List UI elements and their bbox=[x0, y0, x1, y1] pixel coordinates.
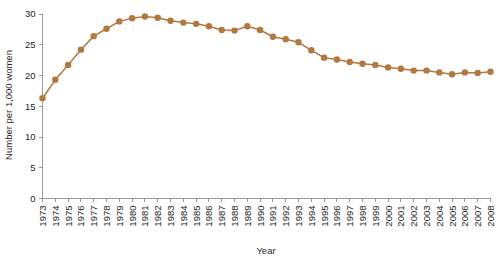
x-tick-label-2000: 2000 bbox=[383, 206, 394, 227]
data-point-1987 bbox=[219, 27, 225, 33]
data-point-1978 bbox=[103, 26, 109, 32]
x-tick-label-1978: 1978 bbox=[101, 206, 112, 227]
data-point-1975 bbox=[65, 62, 71, 68]
data-point-2007 bbox=[475, 70, 481, 76]
data-point-2006 bbox=[462, 69, 468, 75]
data-point-1982 bbox=[155, 14, 161, 20]
data-point-1988 bbox=[231, 27, 237, 33]
data-point-1985 bbox=[193, 21, 199, 27]
data-point-2000 bbox=[385, 64, 391, 70]
x-tick-label-2006: 2006 bbox=[459, 206, 470, 227]
data-point-1997 bbox=[347, 59, 353, 65]
x-tick-label-1976: 1976 bbox=[75, 206, 86, 227]
data-point-1989 bbox=[244, 23, 250, 29]
data-point-1973 bbox=[39, 95, 45, 101]
x-tick-label-1975: 1975 bbox=[63, 206, 74, 227]
x-tick-label-1994: 1994 bbox=[306, 206, 317, 227]
x-tick-label-1984: 1984 bbox=[178, 206, 189, 227]
x-tick-label-2008: 2008 bbox=[485, 206, 496, 227]
data-point-1993 bbox=[295, 39, 301, 45]
x-tick-label-2003: 2003 bbox=[421, 206, 432, 227]
data-point-1981 bbox=[142, 13, 148, 19]
x-tick-label-1979: 1979 bbox=[114, 206, 125, 227]
x-tick-label-1993: 1993 bbox=[293, 206, 304, 227]
x-tick-label-1992: 1992 bbox=[280, 206, 291, 227]
data-point-1974 bbox=[52, 77, 58, 83]
y-tick-label-5: 5 bbox=[30, 162, 35, 173]
y-tick-label-20: 20 bbox=[25, 70, 36, 81]
x-tick-label-1981: 1981 bbox=[139, 206, 150, 227]
x-tick-label-1998: 1998 bbox=[357, 206, 368, 227]
x-tick-label-1996: 1996 bbox=[331, 206, 342, 227]
x-tick-label-2002: 2002 bbox=[408, 206, 419, 227]
x-tick-label-1988: 1988 bbox=[229, 206, 240, 227]
data-point-1995 bbox=[321, 54, 327, 60]
x-axis-title: Year bbox=[256, 245, 275, 256]
y-tick-label-15: 15 bbox=[25, 101, 36, 112]
data-point-1991 bbox=[270, 34, 276, 40]
data-point-1996 bbox=[334, 56, 340, 62]
x-tick-label-1983: 1983 bbox=[165, 206, 176, 227]
x-tick-label-1990: 1990 bbox=[255, 206, 266, 227]
data-point-1979 bbox=[116, 18, 122, 24]
data-point-1984 bbox=[180, 19, 186, 25]
data-point-1998 bbox=[359, 61, 365, 67]
data-point-1994 bbox=[308, 47, 314, 53]
x-tick-label-2004: 2004 bbox=[434, 206, 445, 227]
x-tick-label-1999: 1999 bbox=[370, 206, 381, 227]
data-point-1999 bbox=[372, 62, 378, 68]
x-tick-label-1989: 1989 bbox=[242, 206, 253, 227]
x-tick-label-1982: 1982 bbox=[152, 206, 163, 227]
chart-page: 051015202530 197319741975197619771978197… bbox=[0, 0, 501, 260]
x-tick-label-1986: 1986 bbox=[203, 206, 214, 227]
data-point-1976 bbox=[78, 46, 84, 52]
data-point-2008 bbox=[487, 69, 493, 75]
y-tick-label-0: 0 bbox=[30, 193, 35, 204]
line-chart-figure: 051015202530 197319741975197619771978197… bbox=[0, 0, 501, 260]
data-point-1977 bbox=[91, 33, 97, 39]
data-point-2004 bbox=[436, 69, 442, 75]
chart-canvas: 051015202530 197319741975197619771978197… bbox=[0, 0, 501, 260]
y-tick-label-25: 25 bbox=[25, 39, 36, 50]
x-tick-label-2001: 2001 bbox=[395, 206, 406, 227]
data-point-2003 bbox=[423, 67, 429, 73]
x-tick-label-1977: 1977 bbox=[88, 206, 99, 227]
data-point-1983 bbox=[167, 18, 173, 24]
y-tick-label-10: 10 bbox=[25, 131, 36, 142]
x-tick-label-1997: 1997 bbox=[344, 206, 355, 227]
x-tick-label-1974: 1974 bbox=[50, 206, 61, 227]
x-tick-label-2005: 2005 bbox=[447, 206, 458, 227]
x-tick-label-1980: 1980 bbox=[127, 206, 138, 227]
data-point-2005 bbox=[449, 71, 455, 77]
x-tick-label-1991: 1991 bbox=[267, 206, 278, 227]
data-point-1980 bbox=[129, 15, 135, 21]
x-tick-label-1987: 1987 bbox=[216, 206, 227, 227]
data-point-2001 bbox=[398, 66, 404, 72]
x-tick-label-1985: 1985 bbox=[191, 206, 202, 227]
x-tick-label-2007: 2007 bbox=[472, 206, 483, 227]
data-point-2002 bbox=[411, 67, 417, 73]
x-tick-label-1973: 1973 bbox=[37, 206, 48, 227]
x-tick-label-1995: 1995 bbox=[319, 206, 330, 227]
data-point-1986 bbox=[206, 23, 212, 29]
data-point-1990 bbox=[257, 27, 263, 33]
data-point-1992 bbox=[283, 36, 289, 42]
y-tick-label-30: 30 bbox=[25, 8, 36, 19]
y-axis-title: Number per 1,000 women bbox=[3, 50, 14, 160]
